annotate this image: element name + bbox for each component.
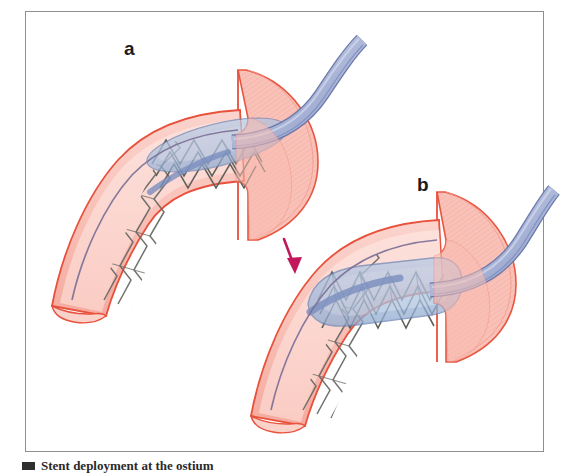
panel-label-b: b [417, 175, 429, 194]
panel-label-a: a [124, 39, 135, 58]
caption-text: Stent deployment at the ostium [22, 459, 442, 473]
caption-marker-square [22, 462, 35, 470]
figure-border-frame [25, 11, 544, 452]
figure-caption: Stent deployment at the ostium [22, 459, 442, 473]
